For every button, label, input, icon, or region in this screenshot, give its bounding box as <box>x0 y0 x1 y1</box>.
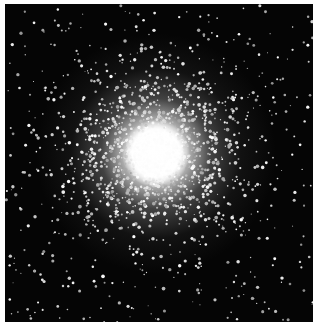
star-cluster-image <box>5 4 313 322</box>
star-field <box>5 4 313 322</box>
